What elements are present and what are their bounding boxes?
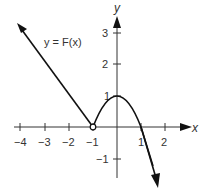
function-label: y = F(x): [44, 36, 82, 48]
x-tick-label: −2: [62, 136, 75, 148]
x-tick-label: 1: [138, 136, 144, 148]
x-axis-label: x: [191, 121, 199, 135]
x-axis-arrow-icon: [180, 123, 192, 131]
x-tick-label: −1: [86, 136, 99, 148]
y-axis-arrow-icon: [113, 16, 121, 28]
y-tick-label: 3: [102, 27, 108, 39]
y-axis-label: y: [113, 1, 121, 15]
x-tick-label: 2: [161, 136, 167, 148]
y-tick-label: −1: [96, 153, 109, 165]
x-axis: [14, 123, 192, 131]
y-tick-label: 2: [102, 58, 108, 70]
function-graph: −4 −3 −2 −1 1 2 3 2 1 −1 x y y = F(x): [0, 0, 206, 192]
parabola-curve: [93, 96, 160, 188]
x-tick-label: −4: [14, 136, 27, 148]
ray-arrow-icon: [17, 23, 27, 33]
x-tick-label: −3: [38, 136, 51, 148]
open-circle-point: [90, 124, 96, 130]
curve-arrow-icon: [151, 173, 160, 188]
